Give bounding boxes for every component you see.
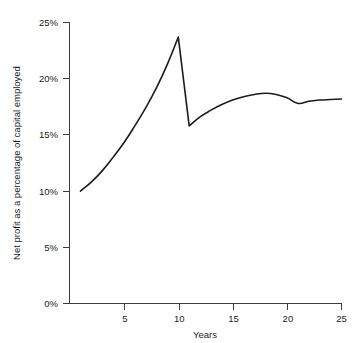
x-tick-label-25: 25 xyxy=(336,313,347,324)
x-tick-label-15: 15 xyxy=(228,313,239,324)
y-tick-label-5: 5% xyxy=(44,242,58,253)
x-axis-title: Years xyxy=(193,329,217,340)
x-tick-label-5: 5 xyxy=(122,313,127,324)
y-tick-label-10: 10% xyxy=(39,186,59,197)
x-tick-label-20: 20 xyxy=(283,313,294,324)
chart-container: 25% 20% 15% 10% 5% 0% 5 10 15 20 25 Year… xyxy=(0,0,357,343)
x-tick-label-10: 10 xyxy=(174,313,185,324)
y-tick-label-25: 25% xyxy=(39,17,59,28)
line-chart: 25% 20% 15% 10% 5% 0% 5 10 15 20 25 Year… xyxy=(0,0,357,343)
y-tick-label-15: 15% xyxy=(39,129,59,140)
y-tick-label-20: 20% xyxy=(39,73,59,84)
y-tick-label-0: 0% xyxy=(44,298,58,309)
series-line-net-profit xyxy=(80,37,341,191)
y-axis-title: Net profit as a percentage of capital em… xyxy=(11,66,22,260)
